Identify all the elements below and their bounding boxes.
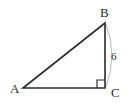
geometry-diagram: A B C 6 xyxy=(0,0,132,108)
side-length-label-bc: 6 xyxy=(111,51,117,62)
vertex-label-a: A xyxy=(10,82,19,95)
vertex-label-b: B xyxy=(100,6,109,19)
triangle-outline-abc xyxy=(23,23,105,88)
right-angle-marker-c xyxy=(97,80,105,88)
vertex-label-c: C xyxy=(111,86,120,99)
